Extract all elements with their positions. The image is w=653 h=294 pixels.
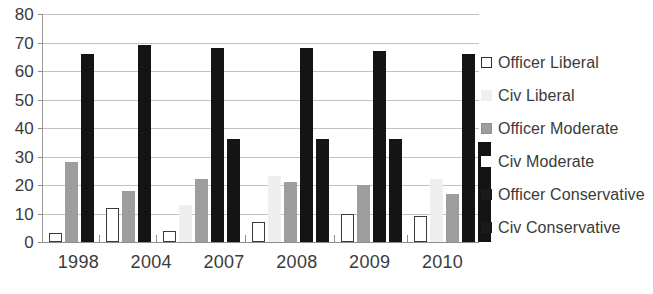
bar-officer-liberal <box>414 216 427 242</box>
legend-item[interactable]: Civ Liberal <box>481 79 653 112</box>
bar-civ-liberal <box>430 179 443 242</box>
legend-swatch-icon <box>481 222 492 233</box>
y-axis-tick-label: 50 <box>0 91 34 108</box>
bar-civ-conservative <box>316 139 329 242</box>
bar-officer-liberal <box>163 231 176 242</box>
x-axis-line <box>42 242 479 243</box>
bar-officer-conservative <box>81 54 94 242</box>
legend-swatch-icon <box>481 123 492 134</box>
legend-item[interactable]: Officer Moderate <box>481 112 653 145</box>
legend-item[interactable]: Officer Liberal <box>481 46 653 79</box>
x-axis-tick-label: 1998 <box>42 252 115 273</box>
y-axis: 01020304050607080 <box>0 0 34 294</box>
bar-group <box>100 14 157 242</box>
legend-item-label: Civ Conservative <box>498 219 621 237</box>
bar-officer-liberal <box>49 233 62 242</box>
bar-civ-liberal <box>179 205 192 242</box>
legend-item-label: Officer Conservative <box>498 186 645 204</box>
bar-officer-moderate <box>284 182 297 242</box>
bar-civ-conservative <box>227 139 240 242</box>
x-axis-tick-label: 2010 <box>406 252 479 273</box>
x-axis-tick-label: 2009 <box>333 252 406 273</box>
legend: Officer LiberalCiv LiberalOfficer Modera… <box>481 46 653 244</box>
y-axis-tick-label: 80 <box>0 6 34 23</box>
bar-officer-moderate <box>195 179 208 242</box>
bar-officer-conservative <box>211 48 224 242</box>
legend-item[interactable]: Officer Conservative <box>481 178 653 211</box>
y-axis-tick-label: 0 <box>0 234 34 251</box>
bar-officer-conservative <box>300 48 313 242</box>
bar-officer-conservative <box>373 51 386 242</box>
x-axis-tick-label: 2008 <box>260 252 333 273</box>
y-axis-tick-label: 70 <box>0 34 34 51</box>
bar-group <box>157 14 246 242</box>
x-axis-tick-label: 2007 <box>188 252 261 273</box>
bar-group <box>335 14 408 242</box>
bar-officer-conservative <box>138 45 151 242</box>
bar-officer-moderate <box>122 191 135 242</box>
legend-item-label: Civ Moderate <box>498 153 594 171</box>
bar-group <box>246 14 335 242</box>
legend-item-label: Officer Moderate <box>498 120 618 138</box>
bar-officer-liberal <box>106 208 119 242</box>
y-axis-tick-label: 20 <box>0 177 34 194</box>
legend-swatch-icon <box>481 156 492 167</box>
bar-officer-moderate <box>446 194 459 242</box>
bar-groups <box>43 14 479 242</box>
bar-officer-liberal <box>252 222 265 242</box>
y-axis-tick-label: 60 <box>0 63 34 80</box>
bar-officer-conservative <box>462 54 475 242</box>
legend-item-label: Officer Liberal <box>498 54 599 72</box>
legend-item-label: Civ Liberal <box>498 87 575 105</box>
legend-swatch-icon <box>481 189 492 200</box>
legend-item[interactable]: Civ Conservative <box>481 211 653 244</box>
bar-civ-liberal <box>268 176 281 242</box>
legend-item[interactable]: Civ Moderate <box>481 145 653 178</box>
bar-chart: 01020304050607080 1998200420072008200920… <box>0 0 653 294</box>
x-axis: 199820042007200820092010 <box>42 252 479 273</box>
bar-officer-moderate <box>357 185 370 242</box>
bar-civ-conservative <box>389 139 402 242</box>
y-axis-tick-label: 30 <box>0 148 34 165</box>
y-axis-tick-label: 10 <box>0 205 34 222</box>
legend-swatch-icon <box>481 90 492 101</box>
bar-group <box>43 14 100 242</box>
x-axis-tick-label: 2004 <box>115 252 188 273</box>
legend-swatch-icon <box>481 57 492 68</box>
y-axis-tick-label: 40 <box>0 120 34 137</box>
bar-officer-liberal <box>341 214 354 243</box>
plot-area <box>42 14 479 242</box>
bar-officer-moderate <box>65 162 78 242</box>
